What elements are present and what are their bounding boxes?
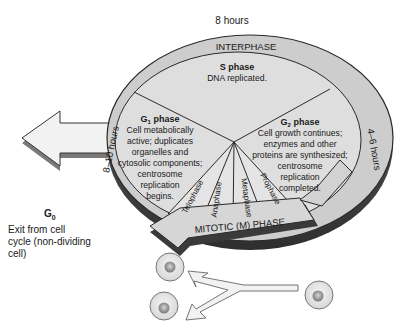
g0-line: Exit from cell	[8, 224, 116, 236]
g2-line: proteins are synthesized;	[252, 150, 348, 160]
interphase-label: INTERPHASE	[216, 41, 277, 52]
g0-line: cell)	[8, 248, 116, 260]
g0-line: cycle (non-dividing	[8, 236, 116, 248]
s-phase-text: DNA replicated.	[207, 73, 267, 83]
g2-line: completed.	[279, 183, 321, 193]
g0-title: G0	[44, 208, 116, 224]
g0-exit-arrow	[22, 111, 112, 171]
g2-phase-title: G2 phase	[281, 117, 320, 128]
g1-line: organelles and	[132, 147, 189, 157]
g2-line: centrosome	[278, 161, 323, 171]
g2-line: enzymes and other	[263, 139, 336, 149]
cell-division-illustration	[150, 253, 333, 320]
s-phase-title: S phase	[220, 62, 255, 72]
g1-line: Cell metabolically	[127, 125, 195, 135]
g1-line: centrosome	[138, 169, 183, 179]
g1-phase-title: G1 phase	[141, 114, 180, 125]
g1-line: cytosolic components;	[118, 158, 203, 168]
nucleus-icon	[165, 262, 176, 273]
cell-cycle-diagram: 8 hours INTERPHASE 8–10 hours 4–6 hours …	[0, 0, 395, 333]
g0-block: G0 Exit from cell cycle (non-dividing ce…	[36, 208, 116, 260]
g2-line: replication	[280, 172, 319, 182]
g1-line: replication	[140, 180, 179, 190]
g2-line: Cell growth continues;	[258, 128, 343, 138]
g1-line: active; duplicates	[127, 136, 193, 146]
g1-line: begins.	[146, 191, 174, 201]
nucleus-icon	[313, 291, 324, 302]
division-arrow	[186, 271, 298, 320]
top-duration-label: 8 hours	[215, 15, 248, 26]
nucleus-icon	[159, 303, 170, 314]
